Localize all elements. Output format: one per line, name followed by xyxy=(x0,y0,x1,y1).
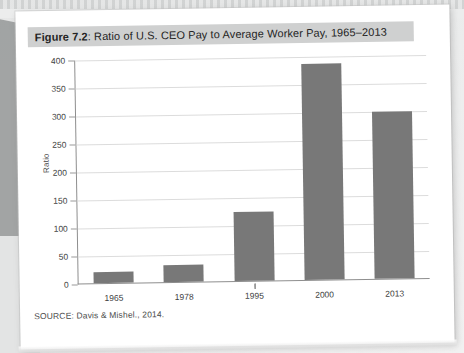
source-note: SOURCE: Davis & Mishel., 2014. xyxy=(34,309,164,321)
bar-slot-2000 xyxy=(286,56,360,280)
x-tick-text: 2013 xyxy=(385,288,404,298)
y-tick-label: 100 xyxy=(54,224,68,233)
figure-caption-banner: Figure 7.2: Ratio of U.S. CEO Pay to Ave… xyxy=(28,21,414,47)
figure-number: Figure 7.2 xyxy=(35,30,88,43)
x-axis-tick-labels: 19651978199520002013 xyxy=(79,281,430,304)
bar-slot-2013 xyxy=(356,55,430,279)
bar-2000[interactable] xyxy=(301,63,344,280)
y-tick-250: 250 xyxy=(29,145,75,146)
chart-plot-area: Ratio 050100150200250300350400 196519781… xyxy=(28,55,436,301)
x-tick-label-1978: 1978 xyxy=(149,284,219,302)
page-edge-highlight xyxy=(19,340,457,353)
y-tick-200: 200 xyxy=(30,172,76,173)
y-tick-label: 350 xyxy=(51,84,65,93)
y-tick-300: 300 xyxy=(29,117,75,118)
bar-1965[interactable] xyxy=(94,271,134,283)
y-tick-label: 150 xyxy=(53,196,67,205)
bar-2013[interactable] xyxy=(372,111,415,279)
x-tick-text: 1978 xyxy=(175,292,194,302)
y-tick-label: 50 xyxy=(59,252,69,261)
x-tick-mark xyxy=(254,284,255,289)
x-tick-text: 1995 xyxy=(245,291,264,301)
page-content: Figure 7.2: Ratio of U.S. CEO Pay to Ave… xyxy=(15,5,454,350)
chart-axes xyxy=(74,55,429,285)
y-tick-0: 0 xyxy=(32,284,78,285)
x-tick-label-2000: 2000 xyxy=(289,282,359,300)
y-tick-label: 0 xyxy=(64,280,69,289)
book-page: Figure 7.2: Ratio of U.S. CEO Pay to Ave… xyxy=(15,5,454,350)
bar-series xyxy=(75,55,429,283)
y-tick-label: 300 xyxy=(52,112,66,121)
photographed-page-scene: Figure 7.2: Ratio of U.S. CEO Pay to Ave… xyxy=(0,0,464,353)
bar-1995[interactable] xyxy=(233,212,274,281)
bar-slot-1995 xyxy=(216,57,290,281)
figure-caption-rest: : Ratio of U.S. CEO Pay to Average Worke… xyxy=(88,26,387,43)
y-tick-label: 250 xyxy=(52,140,66,149)
bar-slot-1965 xyxy=(75,59,149,283)
y-tick-350: 350 xyxy=(29,89,75,90)
y-axis-tick-labels: 050100150200250300350400 xyxy=(28,61,78,286)
y-tick-label: 200 xyxy=(53,168,67,177)
y-tick-50: 50 xyxy=(31,256,77,257)
x-tick-text: 1965 xyxy=(104,293,123,303)
figure-caption-text: Figure 7.2: Ratio of U.S. CEO Pay to Ave… xyxy=(28,26,387,44)
y-tick-100: 100 xyxy=(31,228,77,229)
y-tick-400: 400 xyxy=(28,61,74,62)
y-tick-150: 150 xyxy=(30,200,76,201)
bar-1978[interactable] xyxy=(164,265,204,282)
bar-slot-1978 xyxy=(145,58,219,282)
x-tick-label-2013: 2013 xyxy=(359,281,429,299)
y-tick-label: 400 xyxy=(51,56,65,65)
x-tick-label-1965: 1965 xyxy=(79,285,149,303)
x-tick-text: 2000 xyxy=(315,289,334,299)
